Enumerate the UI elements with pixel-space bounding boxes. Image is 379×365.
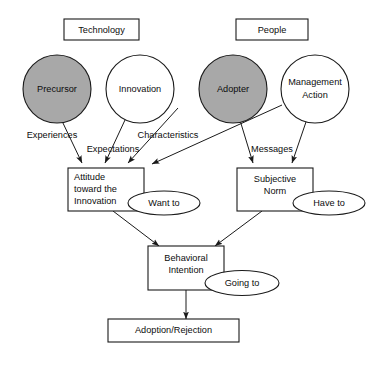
behavioral-intention-label-line1: Behavioral	[164, 253, 207, 263]
edge-management-action-to-subjective-norm	[292, 119, 307, 163]
node-innovation: Innovation	[106, 55, 174, 123]
edge-adopter-to-subjective-norm	[239, 117, 253, 163]
people-label: People	[258, 25, 287, 35]
want-to-label: Want to	[148, 198, 179, 208]
node-management-action: Management Action	[281, 55, 349, 123]
edge-subjective-norm-to-behavioral-intention	[215, 211, 262, 246]
edge-label-experiences: Experiences	[27, 130, 78, 140]
edge-attitude-to-behavioral-intention	[113, 211, 159, 246]
node-adoption-rejection: Adoption/Rejection	[108, 319, 239, 342]
adoption-rejection-label: Adoption/Rejection	[135, 325, 212, 335]
adopter-label: Adopter	[217, 84, 249, 94]
subjective-norm-label-line1: Subjective	[254, 174, 296, 184]
node-going-to: Going to	[205, 271, 279, 296]
group-label-technology: Technology	[64, 19, 139, 40]
technology-label: Technology	[78, 25, 125, 35]
precursor-label: Precursor	[37, 84, 77, 94]
node-have-to: Have to	[293, 191, 365, 215]
management-action-label-line1: Management	[288, 77, 342, 87]
node-want-to: Want to	[128, 191, 200, 215]
edge-label-characteristics: Characteristics	[138, 130, 199, 140]
behavioral-intention-label-line2: Intention	[168, 265, 203, 275]
edge-innovation-expectations-to-attitude	[105, 120, 125, 163]
edge-precursor-to-attitude	[62, 121, 82, 163]
subjective-norm-label-line2: Norm	[264, 186, 287, 196]
have-to-label: Have to	[313, 198, 345, 208]
adoption-model-diagram: Technology People Precursor	[0, 0, 379, 365]
management-action-label-line2: Action	[302, 90, 328, 100]
attitude-label-line1: Attitude	[74, 172, 105, 182]
innovation-label: Innovation	[119, 84, 161, 94]
node-adopter: Adopter	[199, 55, 267, 123]
edge-label-expectations: Expectations	[87, 144, 140, 154]
diagram-canvas: Technology People Precursor	[0, 0, 379, 365]
edge-label-messages: Messages	[251, 144, 293, 154]
node-precursor: Precursor	[23, 55, 91, 123]
going-to-label: Going to	[225, 278, 260, 288]
attitude-label-line2: toward the	[74, 184, 117, 194]
attitude-label-line3: Innovation	[74, 196, 116, 206]
group-label-people: People	[236, 19, 308, 40]
